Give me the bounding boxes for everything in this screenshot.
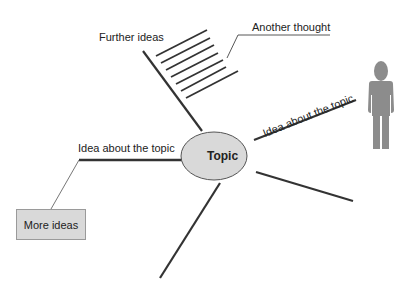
branch-right-down	[256, 172, 353, 201]
label-further-ideas: Further ideas	[99, 31, 164, 43]
topic-label: Topic	[207, 149, 238, 163]
another-thought-connector	[227, 35, 330, 58]
more-ideas-label: More ideas	[24, 219, 78, 231]
person-icon	[368, 61, 394, 149]
more-ideas-box: More ideas	[16, 209, 86, 240]
label-idea-left: Idea about the topic	[78, 142, 175, 154]
hatching-lines	[156, 30, 238, 98]
label-another-thought: Another thought	[252, 21, 330, 33]
mind-map-canvas	[0, 0, 419, 296]
branch-down	[160, 183, 220, 278]
branch-further-ideas	[143, 51, 202, 131]
more-ideas-connector	[51, 160, 79, 209]
